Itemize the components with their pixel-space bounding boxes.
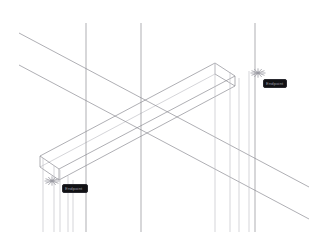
beam-right-end-bottom-edge — [215, 74, 235, 86]
snap-marker-group — [45, 68, 266, 185]
beam-top-face-long-edge-front — [59, 76, 235, 169]
construction-line-upper — [19, 33, 309, 187]
wireframe-line-group — [19, 23, 309, 232]
snap-tooltip-right: Endpoint — [263, 79, 287, 88]
snap-point-right-icon — [251, 68, 266, 77]
wireframe-drawing-canvas[interactable] — [0, 0, 319, 244]
snap-tooltip-left: Endpoint — [62, 184, 88, 193]
snap-point-left-icon — [45, 176, 60, 185]
construction-line-lower — [19, 65, 309, 219]
cad-wireframe-viewport[interactable]: Endpoint Endpoint — [0, 0, 319, 244]
beam-top-face-long-edge-back — [40, 63, 215, 156]
beam-bottom-long-edge-back — [40, 74, 215, 167]
beam-right-end-top-edge — [215, 63, 235, 76]
